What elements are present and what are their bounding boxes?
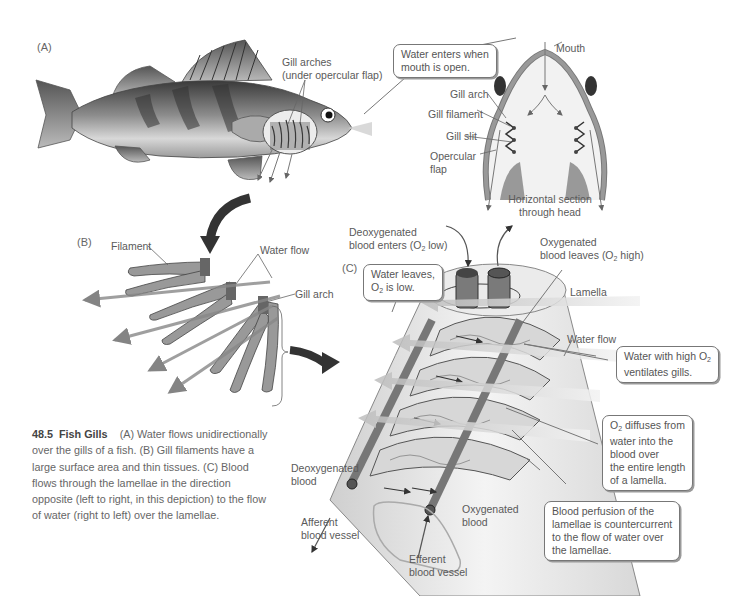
- callout-water-enters-line-1: Water enters when: [401, 48, 489, 61]
- callout-diffuses-line-3: blood over: [610, 448, 685, 461]
- callout-diffuses-line-5: of a lamella.: [610, 474, 685, 487]
- callout-perfusion-line-4: the lamellae.: [552, 544, 672, 557]
- deoxy-blood-line-1: Deoxygenated: [291, 462, 359, 475]
- opercular-line-1: Opercular: [430, 150, 476, 163]
- callout-diffuses-line-4: the entire length: [610, 461, 685, 474]
- callout-high-o2-line-1: Water with high O2: [624, 350, 711, 366]
- oxy-blood-label: Oxygenated blood: [462, 503, 519, 528]
- afferent-line-1: Afferent: [301, 516, 359, 529]
- callout-perfusion: Blood perfusion of the lamellae is count…: [544, 501, 680, 561]
- deoxy-blood-line-2: blood: [291, 475, 359, 488]
- filament-label: Filament: [111, 240, 151, 253]
- figure-title: Fish Gills: [59, 428, 108, 440]
- section-line-2: through head: [500, 206, 600, 219]
- section-caption: Horizontal section through head: [500, 193, 600, 218]
- callout-water-enters-line-2: mouth is open.: [401, 61, 489, 74]
- gill-arches-label: Gill arches (under opercular flap): [282, 56, 382, 81]
- oxy-leaves-line-2: blood leaves (O2 high): [540, 249, 644, 266]
- gill-arch-label-a: Gill arch: [450, 88, 489, 101]
- figure-number: 48.5: [32, 428, 53, 440]
- efferent-label: Efferent blood vessel: [409, 553, 467, 578]
- efferent-line-2: blood vessel: [409, 566, 467, 579]
- callout-water-leaves-line-2: O2 is low.: [371, 281, 435, 297]
- afferent-line-2: blood vessel: [301, 529, 359, 542]
- panel-label-b: (B): [77, 236, 92, 248]
- section-line-1: Horizontal section: [500, 193, 600, 206]
- curved-arrow-icon: [210, 198, 250, 240]
- callout-diffuses-line-1: O2 diffuses from: [610, 419, 685, 435]
- figure-caption: 48.5 Fish Gills (A) Water flows unidirec…: [32, 426, 272, 524]
- oxy-blood-line-2: blood: [462, 516, 519, 529]
- gill-arch-label-b: Gill arch: [295, 288, 334, 301]
- panel-label-c: (C): [342, 262, 357, 274]
- water-flow-label-b: Water flow: [260, 244, 309, 257]
- callout-high-o2: Water with high O2 ventilates gills.: [616, 346, 719, 383]
- gill-filaments-illustration: [85, 246, 295, 406]
- deoxy-blood-label: Deoxygenated blood: [291, 462, 359, 487]
- opercular-flap-label: Opercular flap: [430, 150, 476, 175]
- callout-perfusion-line-1: Blood perfusion of the: [552, 505, 672, 518]
- oxy-leaves-label: Oxygenated blood leaves (O2 high): [540, 236, 644, 265]
- oxy-blood-line-1: Oxygenated: [462, 503, 519, 516]
- callout-water-enters: Water enters when mouth is open.: [393, 44, 497, 78]
- gill-slit-label: Gill slit: [446, 130, 477, 143]
- afferent-label: Afferent blood vessel: [301, 516, 359, 541]
- callout-water-leaves-line-1: Water leaves,: [371, 268, 435, 281]
- callout-water-leaves: Water leaves, O2 is low.: [363, 264, 443, 301]
- callout-diffuses-line-2: water into the: [610, 435, 685, 448]
- callout-perfusion-line-3: to the flow of water over: [552, 531, 672, 544]
- deoxy-enters-line-2: blood enters (O2 low): [349, 239, 447, 256]
- opercular-line-2: flap: [430, 163, 476, 176]
- mouth-label: Mouth: [556, 42, 585, 55]
- deoxy-enters-line-1: Deoxygenated: [349, 226, 447, 239]
- callout-high-o2-line-2: ventilates gills.: [624, 366, 711, 379]
- oxy-leaves-line-1: Oxygenated: [540, 236, 644, 249]
- water-flow-label-c: Water flow: [567, 333, 616, 346]
- gill-arches-line-2: (under opercular flap): [282, 69, 382, 82]
- lamella-label: Lamella: [570, 286, 607, 299]
- gill-filament-label: Gill filament: [428, 108, 483, 121]
- efferent-line-1: Efferent: [409, 553, 467, 566]
- figure-caption-text: (A) Water flows unidirectionally over th…: [32, 428, 267, 521]
- panel-label-a: (A): [37, 41, 52, 53]
- gill-arches-line-1: Gill arches: [282, 56, 382, 69]
- deoxy-enters-label: Deoxygenated blood enters (O2 low): [349, 226, 447, 255]
- callout-o2-diffuses: O2 diffuses from water into the blood ov…: [602, 415, 693, 491]
- callout-perfusion-line-2: lamellae is countercurrent: [552, 518, 672, 531]
